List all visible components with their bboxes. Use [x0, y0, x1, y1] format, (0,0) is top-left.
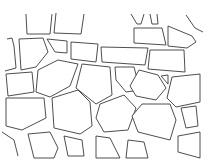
- stones: [2, 13, 203, 158]
- stone-wall-drawing: [0, 0, 213, 167]
- stone-wall-illustration: [0, 0, 213, 167]
